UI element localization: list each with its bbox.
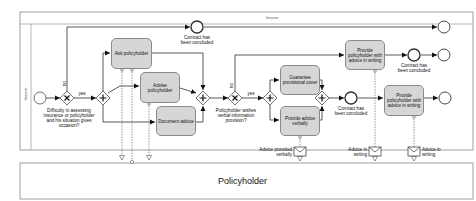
task-document-advice[interactable]: Document advice	[156, 106, 196, 136]
envelope-icon	[294, 147, 306, 156]
end-event-top	[438, 21, 450, 33]
end-event-lower	[439, 92, 451, 104]
event-contract-concluded-upper: Contract has been concluded	[397, 63, 431, 73]
start-event	[34, 92, 46, 104]
gateway1-no-label: no	[62, 81, 67, 87]
gateway2-yes-label: yes	[245, 91, 257, 96]
message-advice-writing-2: Advice in writing	[422, 147, 444, 157]
task-provide-advice-writing-lower[interactable]: Provide policyholder with advice in writ…	[384, 85, 424, 116]
intermediate-event-top	[191, 21, 203, 33]
intermediate-event-middle	[345, 92, 357, 104]
exclusive-gateway-2	[228, 91, 242, 105]
parallel-gateway-split-1	[96, 91, 110, 105]
message-advice-verbally: Advice provided verbally	[254, 147, 292, 157]
exclusive-gateway-1	[60, 91, 74, 105]
event-contract-concluded-middle: Contract has been concluded	[334, 106, 368, 116]
message-advice-writing-1: Advice in writing	[347, 147, 367, 157]
gateway2-no-label: no	[229, 83, 234, 89]
gateway1-question: Difficulty in assessing insurance or pol…	[40, 108, 98, 128]
task-guarantee-provisional-cover[interactable]: Guarantee provisional cover	[280, 65, 320, 95]
insurer-lane-label: Insurer	[23, 88, 28, 100]
gateway2-question: Policyholder wishes verbal information p…	[212, 108, 260, 123]
task-ask-policyholder[interactable]: Ask policyholder	[111, 38, 152, 69]
gateway1-yes-label: yes	[76, 91, 88, 96]
task-provide-advice-writing-upper[interactable]: Provide policyholder with advice in writ…	[345, 40, 385, 70]
intermediate-event-upper	[408, 49, 420, 61]
event-contract-concluded-top: Contract has been concluded	[180, 35, 214, 45]
envelope-icon	[369, 147, 381, 156]
task-provide-advice-verbally[interactable]: Provide advice verbally	[280, 106, 320, 136]
parallel-gateway-split-2	[263, 91, 277, 105]
insurer-pool	[20, 12, 473, 150]
end-event-upper	[438, 49, 450, 61]
task-advise-policyholder[interactable]: Advise policyholder	[140, 72, 180, 103]
policyholder-pool-title: Policyholder	[218, 176, 267, 186]
parallel-gateway-join-1	[196, 91, 210, 105]
insurer-header-label: Insurer	[266, 15, 278, 20]
envelope-icon	[408, 147, 420, 156]
